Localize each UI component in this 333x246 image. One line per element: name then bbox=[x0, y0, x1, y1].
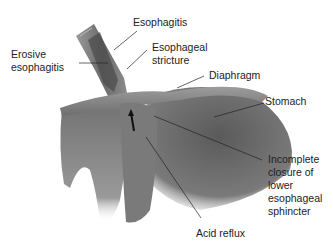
label-diaphragm: Diaphragm bbox=[209, 69, 260, 82]
label-esophagitis: Esophagitis bbox=[133, 16, 187, 29]
label-stomach: Stomach bbox=[265, 95, 306, 108]
label-esophageal-stricture: Esophageal stricture bbox=[152, 41, 207, 67]
label-erosive-esophagitis: Erosive esophagitis bbox=[11, 48, 64, 74]
label-acid-reflux: Acid reflux bbox=[196, 227, 245, 240]
label-incomplete-closure: Incomplete closure of lower esophageal s… bbox=[268, 153, 322, 218]
